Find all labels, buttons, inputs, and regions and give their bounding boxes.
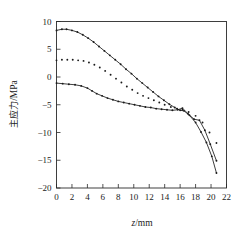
data-point	[80, 85, 82, 87]
data-point	[99, 67, 101, 69]
data-point	[153, 99, 155, 101]
data-point	[200, 131, 202, 133]
x-tick-label-7: 14	[160, 192, 170, 202]
data-point	[131, 73, 133, 75]
data-point	[209, 132, 211, 134]
data-point	[83, 60, 85, 62]
y-axis-title: 主应力/MPa	[8, 79, 19, 127]
data-point	[141, 82, 143, 84]
series-upper-curve	[56, 28, 218, 174]
data-point	[166, 109, 168, 111]
x-tick-label-8: 16	[176, 192, 186, 202]
data-point	[120, 82, 122, 84]
data-point	[61, 28, 63, 30]
data-point	[125, 68, 127, 70]
data-point	[93, 64, 95, 66]
data-point	[56, 59, 58, 61]
x-tick-label-9: 18	[191, 192, 201, 202]
data-point	[177, 109, 179, 111]
plot-frame	[57, 22, 227, 189]
data-point	[101, 95, 103, 97]
x-tick-label-5: 10	[129, 192, 139, 202]
data-point	[199, 119, 201, 121]
data-point	[103, 50, 105, 52]
data-point	[137, 92, 139, 94]
data-point	[158, 95, 160, 97]
data-point	[96, 93, 98, 95]
data-point	[115, 78, 117, 80]
x-tick-label-4: 8	[116, 192, 121, 202]
data-point	[120, 63, 122, 65]
data-point	[164, 104, 166, 106]
y-tick-label-3: −5	[42, 100, 52, 110]
data-point	[76, 31, 78, 33]
data-point	[187, 113, 189, 115]
series-line-lower-curve	[57, 83, 217, 161]
data-point	[179, 109, 181, 111]
data-point	[104, 70, 106, 72]
data-point	[209, 143, 211, 145]
data-point	[112, 99, 114, 101]
data-point	[91, 90, 93, 92]
x-tick-label-2: 4	[85, 192, 90, 202]
x-axis-tick-labels: 0246810121416182022	[54, 192, 231, 202]
x-axis-title-unit: /mm	[135, 218, 153, 228]
data-point	[152, 91, 154, 93]
data-point	[216, 172, 218, 174]
data-point	[87, 37, 89, 39]
x-axis-title: z/mm	[130, 218, 153, 228]
data-point	[62, 83, 64, 85]
x-tick-label-0: 0	[54, 192, 59, 202]
data-point	[117, 100, 119, 102]
data-point	[174, 107, 176, 109]
data-point	[142, 95, 144, 97]
y-tick-label-0: −20	[37, 183, 52, 193]
data-point	[168, 103, 170, 105]
x-tick-label-10: 20	[207, 192, 217, 202]
stress-vs-depth-chart: 0246810121416182022 −20−15−10−50510 z/mm…	[0, 0, 248, 241]
data-point	[195, 115, 197, 117]
data-point	[170, 106, 172, 108]
data-point	[155, 108, 157, 110]
data-point	[216, 160, 218, 162]
data-point	[205, 142, 207, 144]
data-point	[158, 102, 160, 104]
data-point	[88, 62, 90, 64]
data-point	[128, 103, 130, 105]
data-point	[126, 85, 128, 87]
y-tick-label-6: 10	[43, 17, 53, 27]
data-point	[72, 59, 74, 61]
data-point	[193, 118, 195, 120]
data-point	[144, 106, 146, 108]
data-point	[195, 122, 197, 124]
data-point	[182, 107, 184, 109]
data-point	[77, 59, 79, 61]
data-point	[93, 41, 95, 43]
data-point	[71, 29, 73, 31]
series-line-upper-curve	[57, 29, 217, 173]
data-point	[110, 74, 112, 76]
data-point	[216, 142, 218, 144]
data-point	[139, 105, 141, 107]
data-point	[202, 122, 204, 124]
y-axis-tick-labels: −20−15−10−50510	[37, 17, 52, 194]
data-point	[74, 84, 76, 86]
y-tick-label-4: 0	[47, 72, 52, 82]
data-point	[68, 83, 70, 85]
y-axis-title-unit: /MPa	[9, 79, 19, 100]
x-tick-label-6: 12	[145, 192, 154, 202]
data-point	[131, 89, 133, 91]
data-point	[134, 104, 136, 106]
series-middle-curve	[56, 59, 218, 144]
y-axis-ticks	[57, 22, 61, 189]
data-point	[66, 59, 68, 61]
y-tick-label-5: 5	[47, 44, 52, 54]
data-point	[188, 111, 190, 113]
data-point	[66, 28, 68, 30]
data-point	[107, 97, 109, 99]
data-point	[150, 107, 152, 109]
data-point	[82, 34, 84, 36]
data-point	[211, 155, 213, 157]
data-point	[147, 87, 149, 89]
data-point	[136, 78, 138, 80]
